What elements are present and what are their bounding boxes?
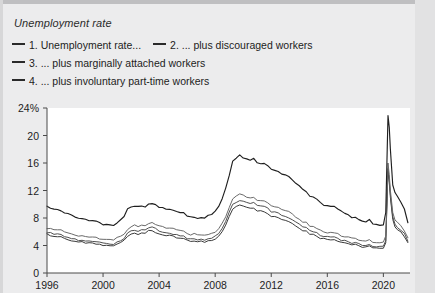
legend-line-icon-series-2 [153, 43, 166, 45]
legend-item-series-1[interactable]: 1. Unemployment rate... [12, 38, 141, 51]
x-tick-label: 2020 [372, 279, 396, 291]
y-tick-label: 16 [27, 157, 39, 169]
legend-line-icon-series-4 [12, 79, 25, 81]
y-tick-label: 8 [33, 212, 39, 224]
x-axis: 1996200020042008201220162020 [35, 273, 395, 291]
page-edge-right [415, 0, 435, 293]
x-tick-label: 2004 [147, 279, 171, 291]
page-edge-top [0, 0, 435, 4]
line-chart-svg: 04812162024% 199620002004200820122016202… [0, 104, 418, 293]
y-tick-label: 24% [18, 104, 39, 114]
y-axis: 04812162024% [18, 104, 47, 279]
legend-row-3: 4. ... plus involuntary part-time worker… [12, 74, 209, 87]
y-tick-label: 0 [33, 267, 39, 279]
legend-label-series-1: 1. Unemployment rate... [29, 39, 141, 51]
legend-item-series-3[interactable]: 3. ... plus marginally attached workers [12, 56, 205, 69]
plot-background [47, 108, 410, 273]
legend-item-series-2[interactable]: 2. ... plus discouraged workers [153, 38, 312, 51]
legend-label-series-2: 2. ... plus discouraged workers [170, 39, 312, 51]
legend-row-2: 3. ... plus marginally attached workers [12, 56, 205, 69]
x-tick-label: 2012 [260, 279, 284, 291]
legend-label-series-4: 4. ... plus involuntary part-time worker… [29, 75, 209, 87]
legend-label-series-3: 3. ... plus marginally attached workers [29, 57, 205, 69]
x-tick-label: 1996 [35, 279, 59, 291]
x-tick-label: 2008 [204, 279, 228, 291]
legend-item-series-4[interactable]: 4. ... plus involuntary part-time worker… [12, 74, 209, 87]
x-tick-label: 2016 [316, 279, 340, 291]
y-tick-label: 4 [33, 240, 39, 252]
legend-line-icon-series-3 [12, 61, 25, 63]
legend-row-1: 1. Unemployment rate... 2. ... plus disc… [12, 38, 312, 51]
legend-line-icon-series-1 [12, 43, 25, 45]
page-background: Unemployment rate 1. Unemployment rate..… [0, 0, 435, 293]
plot-area: 04812162024% 199620002004200820122016202… [0, 104, 418, 293]
y-tick-label: 20 [27, 130, 39, 142]
chart-title: Unemployment rate [14, 17, 112, 29]
x-tick-label: 2000 [91, 279, 115, 291]
y-tick-label: 12 [27, 185, 39, 197]
